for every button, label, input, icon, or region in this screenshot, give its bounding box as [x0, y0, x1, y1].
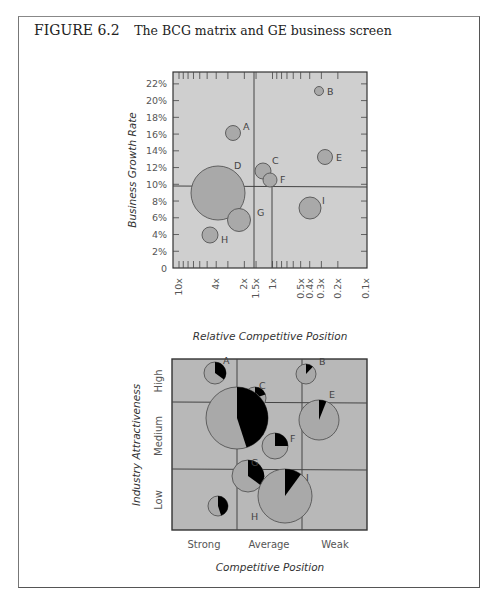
y-tick-label: 2%	[152, 246, 167, 257]
bcg-x-axis-title: Relative Competitive Position	[193, 330, 348, 342]
bcg-bubble-label: B	[327, 86, 334, 97]
y-tick-label: 12%	[146, 162, 167, 173]
ge-y-category-medium: Medium	[153, 416, 164, 456]
bcg-bubble-i	[299, 197, 321, 219]
ge-business-screen-chart: StrongAverageWeakHighMediumLowCompetitiv…	[130, 355, 367, 573]
bcg-bubble-label: A	[243, 121, 250, 132]
bcg-bubble-label: E	[336, 152, 342, 163]
ge-pie-label: G	[251, 457, 258, 468]
charts-canvas: 02%4%6%8%10%12%14%16%18%20%22%10x4x2x1.5…	[0, 0, 500, 613]
ge-y-category-high: High	[153, 370, 164, 393]
y-tick-label: 20%	[146, 95, 167, 106]
bcg-bubble-g	[228, 209, 251, 232]
ge-x-axis-title: Competitive Position	[216, 561, 324, 573]
bcg-bubble-label: C	[272, 155, 279, 166]
ge-x-category-weak: Weak	[321, 539, 349, 550]
bcg-matrix-chart: 02%4%6%8%10%12%14%16%18%20%22%10x4x2x1.5…	[126, 72, 371, 342]
bcg-bubble-label: G	[257, 207, 264, 218]
ge-pie-label: C	[259, 380, 266, 391]
ge-pie-label: H	[251, 511, 258, 522]
ge-pie-label: F	[290, 433, 295, 444]
ge-pie-label: B	[319, 356, 326, 367]
y-tick-label: 10%	[146, 179, 167, 190]
x-tick-label: 0.4x	[304, 278, 315, 299]
ge-y-category-low: Low	[153, 490, 164, 510]
ge-pie-label: I	[306, 472, 309, 483]
bcg-bubble-b	[315, 87, 324, 96]
ge-pie-label: A	[223, 355, 230, 366]
y-tick-label: 8%	[152, 196, 167, 207]
ge-x-category-strong: Strong	[188, 539, 221, 550]
x-tick-label: 2x	[238, 278, 249, 290]
y-tick-label: 16%	[146, 129, 167, 140]
ge-pie-label: E	[329, 389, 335, 400]
bcg-bubble-label: I	[322, 195, 325, 206]
bcg-bubble-f	[263, 173, 277, 187]
y-tick-label: 6%	[152, 212, 167, 223]
x-tick-label: 1x	[267, 278, 278, 290]
x-tick-label: 0.1x	[360, 278, 371, 299]
ge-x-category-average: Average	[248, 539, 289, 550]
x-tick-label: 0.3x	[315, 278, 326, 299]
y-tick-label: 0	[161, 263, 167, 274]
bcg-bubble-label: H	[221, 234, 228, 245]
x-tick-label: 0.2x	[332, 278, 343, 299]
bcg-bubble-a	[226, 126, 241, 141]
y-tick-label: 4%	[152, 229, 167, 240]
ge-y-axis-title: Industry Attractiveness	[130, 383, 142, 506]
y-tick-label: 22%	[146, 78, 167, 89]
y-tick-label: 14%	[146, 145, 167, 156]
bcg-bubble-e	[318, 150, 333, 165]
x-tick-label: 4x	[210, 278, 221, 290]
bcg-bubble-h	[202, 227, 218, 243]
bcg-bubble-label: D	[234, 160, 241, 171]
bcg-y-axis-title: Business Growth Rate	[126, 112, 138, 228]
y-tick-label: 18%	[146, 112, 167, 123]
bcg-bubble-label: F	[280, 174, 285, 185]
x-tick-label: 1.5x	[250, 278, 261, 299]
x-tick-label: 10x	[173, 278, 184, 296]
